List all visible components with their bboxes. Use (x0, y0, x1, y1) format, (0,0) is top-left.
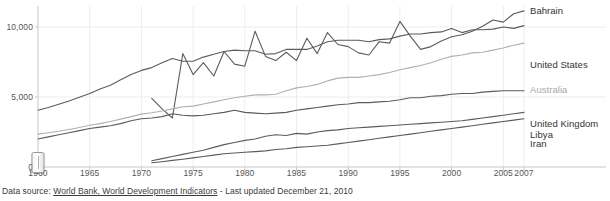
series-label-united-kingdom[interactable]: United Kingdom (530, 117, 598, 128)
chart-plot-area[interactable]: 05,00010,000 BahrainUnited StatesAustral… (0, 0, 610, 178)
series-label-australia[interactable]: Australia (530, 83, 567, 94)
slider-grip-icon (38, 156, 39, 169)
series-label-bahrain[interactable]: Bahrain (530, 5, 563, 16)
x-tick-label: 2000 (442, 168, 461, 178)
x-tick-label: 1975 (183, 168, 202, 178)
series-label-united-states[interactable]: United States (530, 59, 588, 70)
chart-viewport: 05,00010,000 BahrainUnited StatesAustral… (0, 0, 610, 201)
x-tick-label: 2007 (514, 168, 533, 178)
x-tick-label: 1985 (287, 168, 306, 178)
x-tick-label: 1980 (235, 168, 254, 178)
x-tick-label: 1965 (80, 168, 99, 178)
footer-prefix: Data source: (2, 186, 51, 196)
x-tick-label: 1990 (339, 168, 358, 178)
data-source-link[interactable]: World Bank, World Development Indicators (53, 186, 217, 196)
footer-suffix: - Last updated December 21, 2010 (220, 186, 353, 196)
x-tick-label: 1970 (132, 168, 151, 178)
footer-attribution: Data source: World Bank, World Developme… (2, 186, 353, 196)
series-label-iran[interactable]: Iran (530, 138, 547, 149)
series-labels: BahrainUnited StatesAustraliaUnited King… (0, 0, 610, 178)
range-slider-left-handle[interactable] (32, 152, 45, 173)
x-tick-label: 1995 (390, 168, 409, 178)
x-axis-labels: 1960196519701975198019851990199520002005… (0, 168, 610, 180)
x-tick-label: 2005 (494, 168, 513, 178)
